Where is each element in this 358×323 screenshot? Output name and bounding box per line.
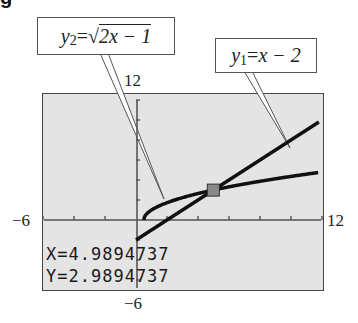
callout-y1-equation: y1 = x − 2 xyxy=(215,38,317,73)
callout-y2-equation: y2 = √2x − 1 xyxy=(37,17,175,55)
callout-pointer-y1 xyxy=(244,71,290,148)
y1-subscript: 1 xyxy=(240,53,247,69)
intersection-cursor xyxy=(207,184,219,196)
xmax-label: 12 xyxy=(327,211,344,231)
trace-y-readout: Y=2.9894737 xyxy=(46,266,170,286)
y2-radicand: 2x − 1 xyxy=(99,24,151,48)
xmin-label: −6 xyxy=(12,211,30,231)
y2-var: y xyxy=(61,25,70,48)
ymax-label: 12 xyxy=(124,71,141,91)
y2-subscript: 2 xyxy=(70,33,77,49)
ymin-label: −6 xyxy=(124,294,142,314)
radical-sign: √ xyxy=(88,25,99,48)
y1-var: y xyxy=(231,44,240,67)
y2-equals: = xyxy=(77,25,88,48)
curve-y1 xyxy=(136,122,319,240)
y1-equals: = xyxy=(247,44,258,67)
trace-x-readout: X=4.9894737 xyxy=(46,244,170,264)
y1-rhs: x − 2 xyxy=(258,44,300,67)
